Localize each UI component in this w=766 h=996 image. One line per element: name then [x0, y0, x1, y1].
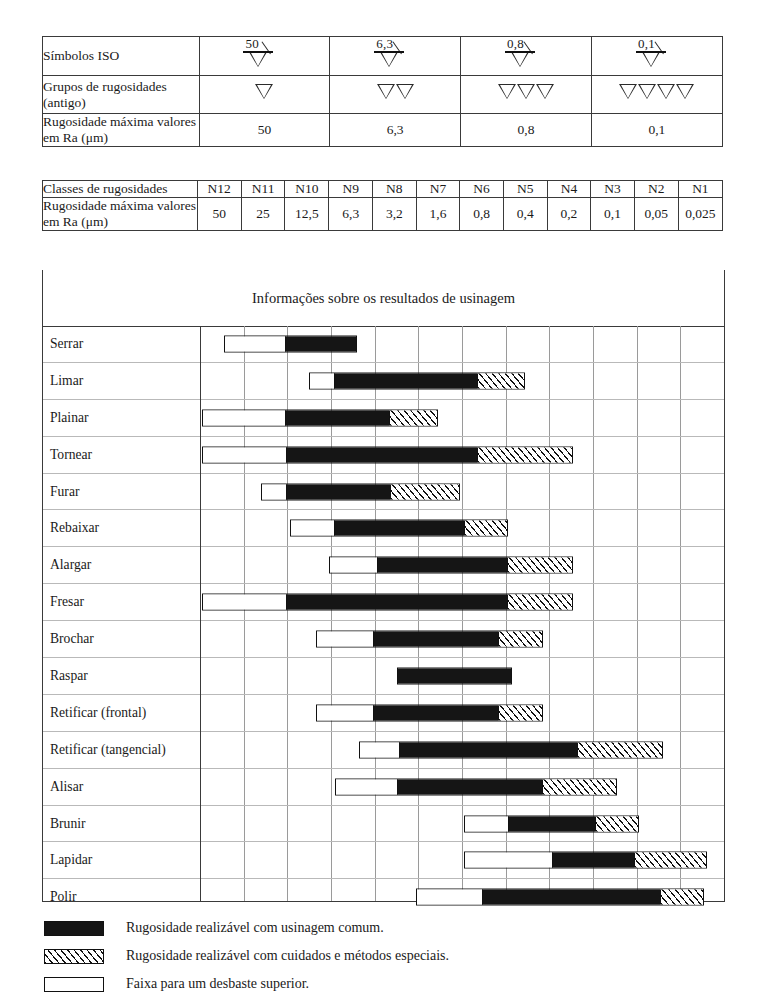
table-row: Alisar [43, 769, 724, 806]
bar-segment-black [398, 668, 512, 683]
table-row: Retificar (frontal) [43, 695, 724, 732]
bar-segment-white [262, 484, 286, 499]
triangle-icon [377, 84, 395, 99]
roughness-bar [464, 815, 639, 832]
bar-segment-white [360, 742, 399, 757]
roughness-bar [290, 520, 508, 537]
legend-label: Rugosidade realizável com cuidados e mét… [126, 948, 449, 964]
process-label: Retificar (frontal) [50, 695, 146, 731]
row-label-classes: Classes de rugosidades [43, 181, 198, 198]
triangle-icon [380, 52, 398, 67]
ra-cell-10: 0,05 [634, 198, 678, 231]
iso-symbol-cell-3: 0,1 [591, 37, 722, 76]
bar-segment-hatch [477, 447, 573, 462]
bar-segment-black [286, 484, 390, 499]
iso-value-0: 50 [245, 36, 259, 52]
bar-segment-black [334, 373, 477, 388]
iso-value-1: 6,3 [376, 36, 393, 52]
bar-segment-white [336, 779, 397, 794]
legend-swatch-black [44, 921, 104, 936]
iso-symbol-0-1: 0,1 [630, 37, 684, 71]
group-ra-value-2: 0,8 [461, 114, 592, 147]
class-cell-n1: N1 [678, 181, 722, 198]
table-row-group-ra: Rugosidade máxima valores em Ra (μm) 50 … [43, 114, 723, 147]
triangle-icon [511, 52, 529, 67]
chart-label-separator [200, 326, 201, 901]
bar-segment-white [317, 705, 373, 720]
table-row-classes: Classes de rugosidades N12 N11 N10 N9 N8… [43, 181, 723, 198]
triangle-icon [657, 84, 675, 99]
iso-symbol-0-8: 0,8 [499, 37, 553, 71]
process-label: Brochar [50, 621, 94, 657]
class-cell-n9: N9 [329, 181, 373, 198]
bar-segment-black [482, 890, 660, 905]
class-cell-n6: N6 [460, 181, 504, 198]
ra-cell-0: 50 [197, 198, 241, 231]
class-cell-n10: N10 [285, 181, 329, 198]
iso-symbol-50: 50 [237, 37, 291, 71]
bar-segment-hatch [464, 521, 507, 536]
table-row: Fresar [43, 584, 724, 621]
roughness-bar [261, 483, 460, 500]
iso-bar-1 [374, 51, 404, 53]
bar-segment-black [334, 521, 464, 536]
ra-cell-9: 0,1 [591, 198, 635, 231]
bar-segment-black [285, 410, 389, 425]
roughness-bar [335, 778, 617, 795]
legend-item: Rugosidade realizável com usinagem comum… [44, 914, 744, 942]
process-label: Furar [50, 474, 79, 510]
iso-bar-0 [243, 51, 273, 53]
table-row: Brunir [43, 806, 724, 843]
process-label: Plainar [50, 400, 89, 436]
class-cell-n3: N3 [591, 181, 635, 198]
bar-segment-white [317, 632, 373, 647]
bar-segment-black [552, 853, 634, 868]
triangle-group-1 [200, 84, 330, 106]
iso-symbol-6-3: 6,3 [368, 37, 422, 71]
ra-cell-3: 6,3 [329, 198, 373, 231]
class-cell-n5: N5 [503, 181, 547, 198]
triangle-group-3 [461, 84, 591, 106]
table-row: Tornear [43, 437, 724, 474]
process-label: Rebaixar [50, 510, 99, 546]
bar-segment-hatch [507, 595, 572, 610]
bar-segment-hatch [595, 816, 638, 831]
group-ra-value-0: 50 [199, 114, 330, 147]
table-row-ra-values: Rugosidade máxima valores em Ra (μm) 50 … [43, 198, 723, 231]
legend-swatch-hatch [44, 949, 104, 964]
row-label-group-ra: Rugosidade máxima valores em Ra (μm) [43, 114, 200, 147]
bar-segment-black [286, 595, 507, 610]
bar-segment-hatch [507, 558, 572, 573]
iso-value-2: 0,8 [507, 36, 524, 52]
iso-symbol-cell-2: 0,8 [461, 37, 592, 76]
bar-segment-hatch [542, 779, 616, 794]
row-label-ra-values: Rugosidade máxima valores em Ra (μm) [43, 198, 198, 231]
roughness-bar [329, 557, 574, 574]
old-group-cell-3 [591, 76, 722, 114]
process-label: Lapidar [50, 842, 92, 878]
group-ra-value-1: 6,3 [330, 114, 461, 147]
bar-segment-white [203, 410, 285, 425]
roughness-classes-table: Classes de rugosidades N12 N11 N10 N9 N8… [42, 180, 723, 231]
row-label-iso-symbols: Símbolos ISO [43, 37, 200, 76]
iso-bar-3 [636, 51, 666, 53]
bar-segment-hatch [477, 373, 525, 388]
process-label: Raspar [50, 658, 88, 694]
roughness-bar [464, 852, 706, 869]
process-label: Limar [50, 363, 83, 399]
old-group-cell-0 [199, 76, 330, 114]
table-row: Rebaixar [43, 510, 724, 547]
roughness-bar [202, 446, 573, 463]
roughness-bar [316, 704, 543, 721]
bar-segment-hatch [577, 742, 662, 757]
table-row: Alargar [43, 547, 724, 584]
bar-segment-hatch [498, 705, 541, 720]
bar-segment-white [291, 521, 334, 536]
ra-cell-5: 1,6 [416, 198, 460, 231]
bar-segment-hatch [389, 410, 437, 425]
machining-results-chart: SerrarLimarPlainarTornearFurarRebaixarAl… [42, 326, 725, 902]
bar-segment-black [373, 632, 499, 647]
bar-segment-white [465, 853, 552, 868]
bar-segment-white [465, 816, 508, 831]
process-label: Alargar [50, 547, 91, 583]
